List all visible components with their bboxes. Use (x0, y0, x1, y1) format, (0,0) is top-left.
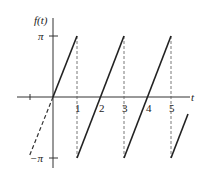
x-tick-label-4: 4 (146, 102, 152, 114)
x-tick-label-3: 3 (122, 102, 128, 114)
sawtooth-segment-0 (53, 36, 77, 97)
x-axis-label: t (191, 91, 195, 103)
y-tick-label-neg-pi: −π (30, 152, 43, 164)
negative-extension (29, 97, 53, 157)
x-tick-label-5: 5 (169, 102, 175, 114)
y-tick-label-pi: π (38, 30, 44, 42)
sawtooth-chart: f(t) t π −π 1 2 3 4 5 (0, 0, 210, 174)
y-axis-label: f(t) (34, 14, 48, 27)
x-tick-label-1: 1 (75, 102, 81, 114)
x-tick-label-2: 2 (99, 102, 105, 114)
sawtooth-segment-3 (171, 114, 188, 158)
